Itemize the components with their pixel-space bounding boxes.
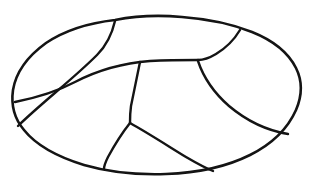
oval-segmented-drawing [0,0,312,187]
figure-canvas [0,0,312,187]
